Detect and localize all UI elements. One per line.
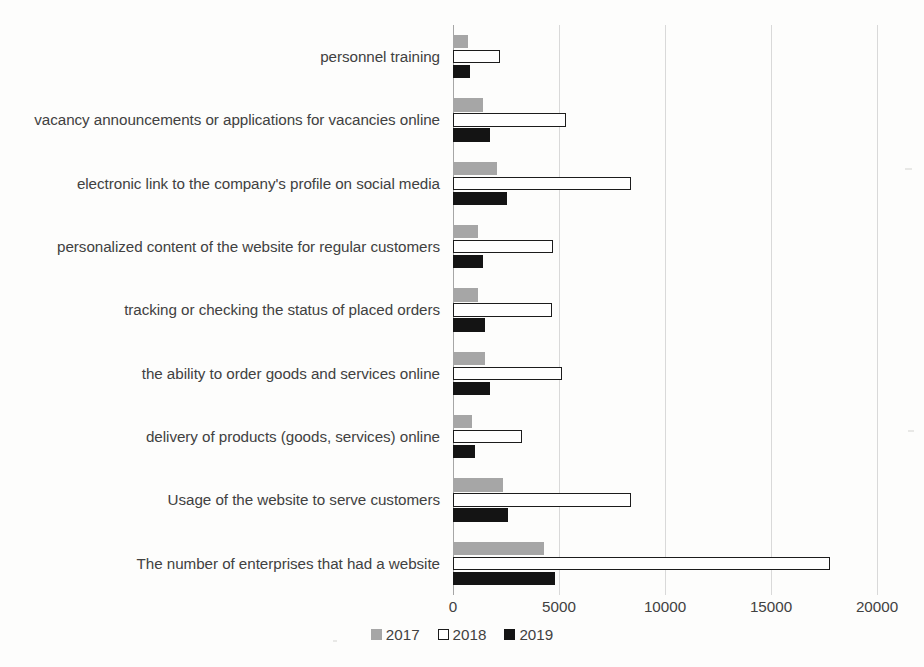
category-axis-label: vacancy announcements or applications fo… (34, 110, 440, 129)
bar-2019 (453, 508, 508, 522)
bar-2018 (453, 113, 566, 127)
category-label-cell: personalized content of the website for … (0, 215, 440, 278)
legend-item-2018[interactable]: 2018 (438, 626, 487, 643)
category-axis-label: delivery of products (goods, services) o… (146, 427, 440, 446)
bar-2018 (453, 50, 500, 64)
bar-2019 (453, 318, 485, 332)
bar-2017 (453, 162, 497, 176)
category-axis-label: Usage of the website to serve customers (168, 490, 440, 509)
bar-2017 (453, 288, 478, 302)
category-label-cell: personnel training (0, 25, 440, 88)
category-axis-label: the ability to order goods and services … (142, 364, 440, 383)
bar-2017 (453, 542, 544, 556)
gridline-10000 (665, 25, 666, 595)
value-axis-tick-label: 5000 (542, 598, 576, 615)
scan-artifact (905, 168, 912, 170)
bar-2018 (453, 367, 562, 381)
bar-2018 (453, 493, 631, 507)
category-label-cell: delivery of products (goods, services) o… (0, 405, 440, 468)
outlined-white-square-icon (438, 629, 449, 640)
category-label-cell: The number of enterprises that had a web… (0, 532, 440, 595)
value-axis-tick-label: 0 (449, 598, 457, 615)
bar-2019 (453, 382, 490, 396)
bar-2017 (453, 225, 478, 239)
value-axis-tick-label: 15000 (750, 598, 792, 615)
bar-2017 (453, 352, 485, 366)
bar-2018 (453, 177, 631, 191)
scan-artifact (908, 430, 914, 432)
gridline-15000 (771, 25, 772, 595)
gridline-5000 (559, 25, 560, 595)
bar-2017 (453, 98, 483, 112)
value-axis: 05000100001500020000 (453, 596, 877, 620)
bar-2017 (453, 35, 468, 49)
category-label-cell: electronic link to the company's profile… (0, 152, 440, 215)
category-axis-label: tracking or checking the status of place… (124, 300, 440, 319)
bar-2019 (453, 65, 470, 79)
filled-black-square-icon (504, 629, 515, 640)
category-label-cell: Usage of the website to serve customers (0, 468, 440, 531)
bar-2018 (453, 303, 552, 317)
bar-2019 (453, 445, 475, 459)
bar-2019 (453, 255, 483, 269)
legend-label: 2019 (519, 626, 553, 643)
category-label-cell: tracking or checking the status of place… (0, 278, 440, 341)
category-axis-label: personnel training (320, 47, 440, 66)
filled-gray-square-icon (371, 629, 382, 640)
legend-item-2019[interactable]: 2019 (504, 626, 553, 643)
legend: 201720182019 (0, 626, 924, 643)
plot-area (453, 25, 877, 595)
category-axis-label: The number of enterprises that had a web… (137, 554, 440, 573)
bar-2019 (453, 192, 507, 206)
bar-chart: personnel trainingvacancy announcements … (0, 0, 924, 667)
bar-2018 (453, 240, 553, 254)
gridline-20000 (877, 25, 878, 595)
legend-item-2017[interactable]: 2017 (371, 626, 420, 643)
category-axis-label: electronic link to the company's profile… (77, 174, 440, 193)
value-axis-tick-label: 20000 (856, 598, 898, 615)
value-axis-tick-label: 10000 (644, 598, 686, 615)
category-axis: personnel trainingvacancy announcements … (0, 25, 446, 595)
category-label-cell: the ability to order goods and services … (0, 342, 440, 405)
legend-label: 2017 (386, 626, 420, 643)
bar-2017 (453, 415, 472, 429)
category-axis-label: personalized content of the website for … (57, 237, 440, 256)
bar-2019 (453, 128, 490, 142)
bar-2018 (453, 430, 522, 444)
bar-2019 (453, 572, 555, 586)
legend-label: 2018 (453, 626, 487, 643)
category-label-cell: vacancy announcements or applications fo… (0, 88, 440, 151)
bar-2017 (453, 478, 503, 492)
bar-2018 (453, 557, 830, 571)
